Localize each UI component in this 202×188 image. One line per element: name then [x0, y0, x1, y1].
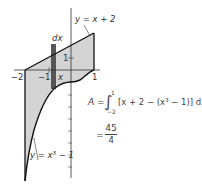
- dx-strip: [51, 44, 56, 89]
- area-lhs: A =: [88, 97, 105, 107]
- tick-neg1: −1: [38, 72, 51, 82]
- upper-curve-label: y = x + 2: [75, 14, 116, 24]
- integral-lower: −2: [107, 108, 116, 115]
- dx-label: dx: [52, 33, 62, 43]
- tick-neg2: −2: [11, 72, 24, 82]
- tick-1: 1: [92, 72, 97, 82]
- result-eq: =: [96, 130, 104, 140]
- integrand: [x + 2 − (x³ − 1)] dx: [118, 97, 202, 107]
- numerator: 45: [104, 123, 118, 133]
- denominator: 4: [104, 135, 118, 145]
- tick-y1: 1: [63, 53, 68, 63]
- x-label: x: [58, 72, 63, 82]
- integral-upper: 1: [111, 89, 115, 96]
- lower-curve-label: y = x³ − 1: [30, 150, 74, 160]
